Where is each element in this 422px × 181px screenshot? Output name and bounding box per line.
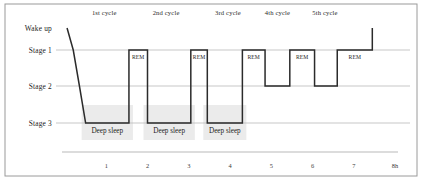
cycle-label-5: 5th cycle — [312, 9, 337, 16]
deep-sleep-labels: Deep sleepDeep sleepDeep sleep — [91, 127, 241, 135]
cycle-label-2: 2nd cycle — [153, 9, 180, 16]
rem-label-1: REM — [132, 54, 144, 60]
y-axis-label-stage1: Stage 1 — [29, 46, 52, 55]
cycle-label-1: 1st cycle — [92, 9, 117, 16]
x-tick-6: 6 — [311, 162, 314, 169]
y-axis-label-wake: Wake up — [25, 24, 52, 33]
deep-sleep-label-1: Deep sleep — [91, 127, 123, 135]
hypnogram-chart: Wake upStage 1Stage 2Stage 3 1st cycle2n… — [0, 0, 422, 181]
rem-label-2: REM — [193, 54, 205, 60]
cycle-label-4: 4th cycle — [265, 9, 290, 16]
deep-sleep-label-2: Deep sleep — [153, 127, 185, 135]
rem-label-4: REM — [296, 54, 308, 60]
y-axis-label-stage3: Stage 3 — [29, 119, 52, 128]
rem-label-3: REM — [248, 54, 260, 60]
x-tick-5: 5 — [270, 162, 273, 169]
figure-background — [0, 0, 422, 181]
x-tick-1: 1 — [105, 162, 108, 169]
y-axis-label-stage2: Stage 2 — [29, 82, 52, 91]
rem-label-5: REM — [349, 54, 361, 60]
x-tick-2: 2 — [146, 162, 149, 169]
x-tick-3: 3 — [187, 162, 190, 169]
deep-sleep-label-3: Deep sleep — [209, 127, 241, 135]
x-tick-8h: 8h — [392, 162, 399, 169]
cycle-label-3: 3rd cycle — [215, 9, 241, 16]
hypnogram-figure: Wake upStage 1Stage 2Stage 3 1st cycle2n… — [0, 0, 422, 181]
